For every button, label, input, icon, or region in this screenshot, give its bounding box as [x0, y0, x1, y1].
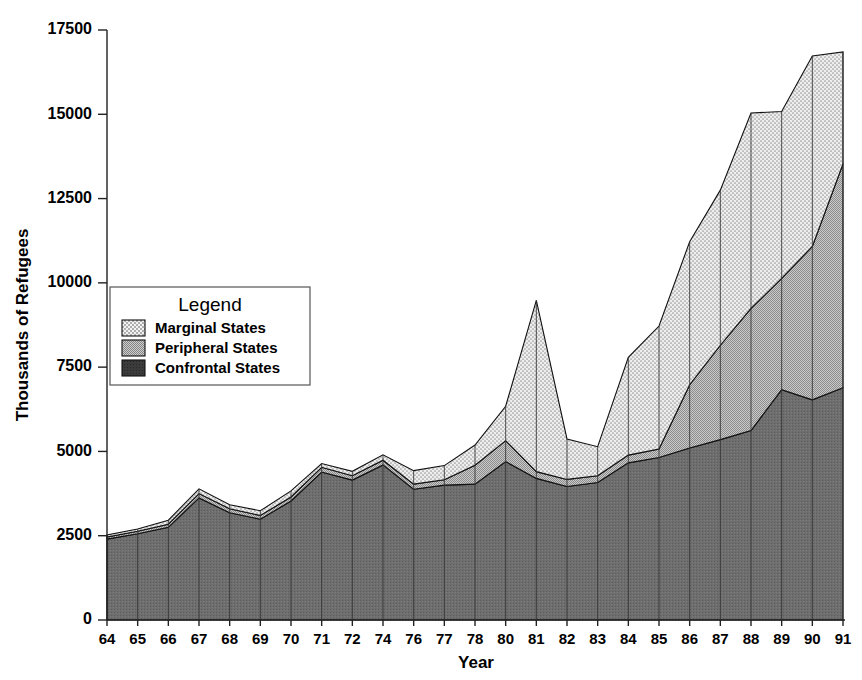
legend-item-marginal[interactable]: Marginal States [122, 319, 266, 336]
legend-label-marginal: Marginal States [155, 319, 266, 336]
legend-item-peripheral[interactable]: Peripheral States [122, 339, 278, 356]
x-tick-label: 91 [835, 630, 852, 647]
y-axis: 025005000750010000125001500017500 [48, 20, 108, 627]
chart-svg: Thousands of Refugees 025005000750010000… [0, 0, 862, 680]
y-tick-label: 7500 [56, 357, 92, 374]
y-tick-label: 2500 [56, 526, 92, 543]
x-tick-label: 69 [252, 630, 269, 647]
y-axis-title: Thousands of Refugees [13, 229, 32, 422]
y-tick-label: 5000 [56, 442, 92, 459]
x-tick-label: 81 [528, 630, 545, 647]
x-tick-label: 89 [773, 630, 790, 647]
legend-swatch-peripheral-icon [122, 340, 145, 356]
x-tick-label: 87 [712, 630, 729, 647]
x-axis-title-text: Year [458, 653, 494, 672]
y-tick-label: 15000 [48, 105, 93, 122]
y-tick-label: 17500 [48, 20, 93, 37]
x-tick-label: 65 [129, 630, 146, 647]
x-tick-label: 88 [743, 630, 760, 647]
legend-label-confrontal: Confrontal States [155, 359, 280, 376]
x-tick-label: 82 [559, 630, 576, 647]
x-tick-label: 64 [99, 630, 116, 647]
x-tick-label: 66 [160, 630, 177, 647]
legend-swatch-confrontal-icon [122, 360, 145, 376]
x-tick-label: 68 [221, 630, 238, 647]
x-tick-label: 77 [436, 630, 453, 647]
x-tick-label: 86 [681, 630, 698, 647]
x-tick-label: 71 [313, 630, 330, 647]
x-tick-label: 84 [620, 630, 637, 647]
x-tick-label: 70 [283, 630, 300, 647]
legend-swatch-marginal-icon [122, 320, 145, 336]
x-tick-label: 85 [651, 630, 668, 647]
y-tick-label: 0 [83, 610, 92, 627]
legend: Legend Marginal States Peripheral States… [110, 287, 310, 385]
y-tick-label: 10000 [48, 273, 93, 290]
x-tick-label: 78 [467, 630, 484, 647]
x-tick-label: 72 [344, 630, 361, 647]
x-axis: 6465666768697071727476777880818283848586… [99, 620, 852, 647]
x-tick-label: 76 [405, 630, 422, 647]
y-axis-title-text: Thousands of Refugees [13, 229, 32, 422]
x-tick-label: 83 [589, 630, 606, 647]
x-tick-label: 90 [804, 630, 821, 647]
x-tick-label: 67 [191, 630, 208, 647]
legend-label-peripheral: Peripheral States [155, 339, 278, 356]
legend-title: Legend [178, 294, 241, 315]
y-tick-label: 12500 [48, 189, 93, 206]
x-tick-label: 80 [497, 630, 514, 647]
refugees-stacked-area-chart: Thousands of Refugees 025005000750010000… [0, 0, 862, 680]
x-tick-label: 74 [375, 630, 392, 647]
